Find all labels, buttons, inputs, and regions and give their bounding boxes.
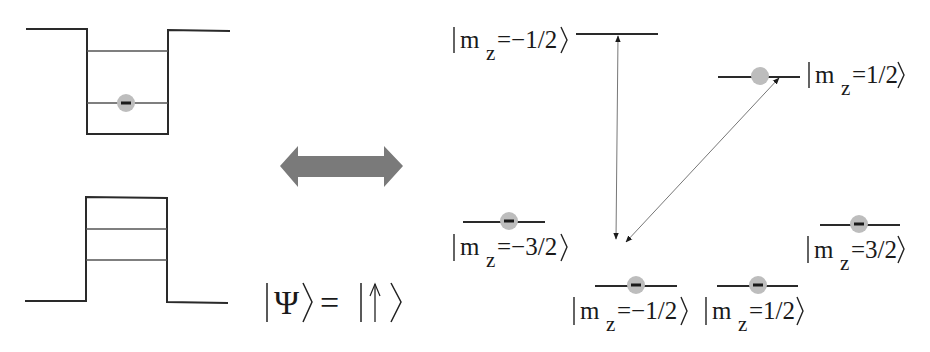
ket-subscript: z [486,248,495,272]
electron-icon [117,94,135,112]
ket-label: m [460,233,480,260]
diagram-svg: Ψ = m z =−1/2 m z =1/2 [0,0,930,352]
level-top-left: m z =−1/2 [454,26,658,65]
electron-icon [627,276,645,294]
state-equation: Ψ = [267,283,401,322]
electron-icon [850,215,868,233]
spin-up-arrow-icon [370,284,380,322]
conduction-well [26,29,230,134]
electron-icon [751,67,769,85]
level-mid-right: m z =3/2 [808,215,904,275]
electron-icon [500,212,518,230]
ket-label: m [814,236,834,263]
level-bottom-left: m z =−1/2 [574,276,687,336]
ket-label: m [712,297,732,324]
diagram-canvas: Ψ = m z =−1/2 m z =1/2 [0,0,930,352]
ket-label: m [580,297,600,324]
ket-value: =3/2 [851,236,897,263]
valence-barrier [25,197,228,303]
ket-subscript: z [841,76,850,100]
ket-subscript: z [840,251,849,275]
level-top-right: m z =1/2 [718,61,904,100]
vertical-transition-arrow-icon [616,36,618,239]
ket-value: =−1/2 [497,26,557,53]
psi-symbol: Ψ [274,284,299,321]
ket-value: =−1/2 [617,297,677,324]
ket-label: m [815,61,835,88]
ket-value: =−3/2 [497,233,557,260]
ket-label: m [460,26,480,53]
level-mid-left: m z =−3/2 [454,212,567,272]
ket-value: =1/2 [852,61,898,88]
ket-subscript: z [606,312,615,336]
ket-subscript: z [486,41,495,65]
electron-icon [749,276,767,294]
equals-sign: = [320,284,339,321]
double-headed-arrow-icon [280,146,403,187]
ket-subscript: z [738,312,747,336]
level-bottom-right: m z =1/2 [706,276,803,336]
ket-value: =1/2 [749,297,795,324]
diagonal-transition-arrow-icon [626,78,779,242]
